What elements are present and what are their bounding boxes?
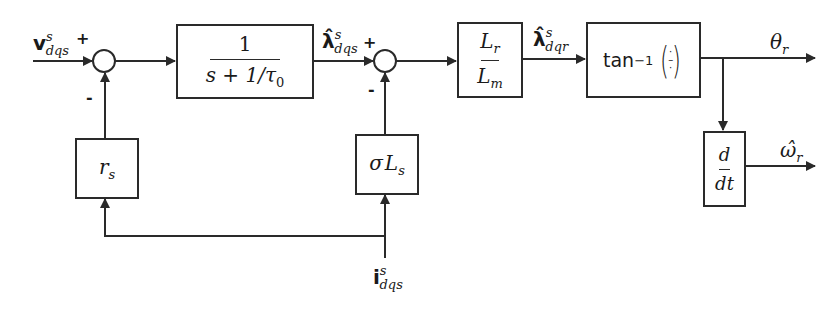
lm-sub: m (490, 75, 502, 90)
derivative-denominator: dt (715, 170, 734, 193)
tan-label: tan (603, 49, 634, 71)
integrator-block: 1 s + 1/τ0 (176, 24, 314, 99)
lm-symbol: L (477, 64, 490, 88)
current-input-label: isdqs (373, 264, 403, 291)
omega-sub: r (796, 150, 802, 165)
theta-symbol: θ (770, 30, 782, 54)
omega-output-label: ω̂r (780, 140, 803, 164)
left-paren: ( (660, 41, 669, 79)
sigma-symbol: σ (369, 151, 383, 175)
tan-exponent: −1 (634, 53, 653, 68)
omega-symbol: ω̂ (780, 138, 796, 162)
lambda-symbol: λ̂ (322, 29, 335, 53)
rs-symbol: r (99, 155, 109, 179)
integrator-numerator: 1 (239, 34, 252, 59)
tau-subscript: 0 (276, 75, 284, 90)
sum2-minus-sign: - (368, 82, 375, 98)
stator-resistance-block: rs (75, 138, 139, 199)
lambda-sub: dqs (334, 41, 357, 56)
voltage-sup: s (46, 29, 53, 44)
derivative-block: d dt (703, 131, 746, 207)
lambda-sup: s (546, 25, 553, 40)
sum2-plus-sign: + (363, 35, 376, 51)
lambda-symbol: λ̂ (533, 27, 546, 51)
rotor-flux-estimate-label: λ̂sdqr (533, 26, 568, 53)
voltage-input-label: vsdqs (33, 30, 69, 57)
denominator-s-term: s + 1/ (206, 63, 265, 87)
sum1-minus-sign: - (86, 90, 93, 106)
tau-symbol: τ (265, 63, 276, 87)
lambda-sup: s (335, 27, 342, 42)
lr-sub: r (494, 41, 500, 56)
right-paren: ) (672, 41, 681, 79)
current-sup: s (380, 263, 387, 278)
current-symbol: i (373, 265, 380, 289)
theta-output-label: θr (770, 32, 788, 56)
flux-ratio-block: Lr Lm (457, 22, 523, 98)
derivative-numerator: d (719, 146, 731, 169)
theta-sub: r (782, 42, 788, 57)
rs-sub: s (108, 167, 115, 182)
lambda-sub: dqr (545, 39, 568, 54)
ls-sub: s (398, 163, 405, 178)
leakage-inductance-block: σLs (355, 134, 419, 195)
voltage-symbol: v (33, 31, 46, 55)
integrator-denominator: s + 1/τ0 (206, 60, 285, 89)
current-sub: dqs (380, 277, 403, 292)
voltage-sub: dqs (46, 43, 69, 58)
ls-symbol: L (385, 151, 398, 175)
lr-symbol: L (480, 29, 493, 53)
stator-flux-estimate-label: λ̂sdqs (322, 28, 358, 55)
arctan-block: tan−1 ( ·–· ) (586, 22, 701, 98)
sum1-plus-sign: + (76, 31, 89, 47)
